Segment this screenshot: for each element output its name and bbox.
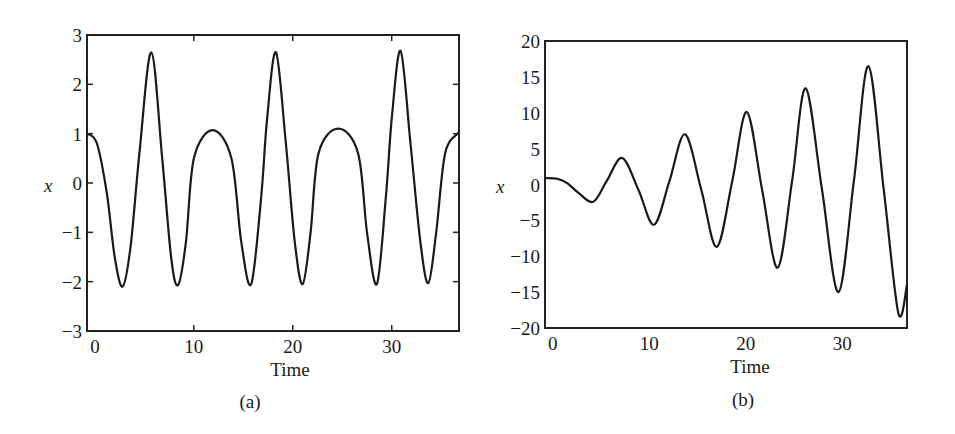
y-tick-label: 1 [73,124,83,145]
x-tick-label: 10 [184,336,203,357]
x-tick-label: 0 [90,336,100,357]
y-tick-label: −3 [62,321,82,342]
y-tick-label: 2 [73,74,83,95]
x-tick-labels-b: 0102030 [548,333,852,354]
ticks-a [87,35,459,331]
x-tick-label: 30 [382,336,401,357]
y-tick-label: 0 [73,173,83,194]
y-tick-label: −5 [520,210,540,231]
y-tick-label: −1 [62,222,82,243]
x-tick-label: 10 [640,333,659,354]
y-tick-label: 5 [531,139,541,160]
caption-b: (b) [732,389,754,411]
y-tick-label: 20 [521,31,540,52]
y-tick-label: −20 [510,318,540,339]
x-axis-label-b: Time [730,356,769,377]
y-tick-label: 10 [521,103,540,124]
figure: 3210−1−2−3 0102030 x Time (a) 20151050−5… [0,0,955,434]
series-curve-a [87,51,459,287]
plot-frame-a [87,35,459,331]
x-tick-labels-a: 0102030 [90,336,401,357]
y-tick-label: −15 [510,282,540,303]
y-axis-label-a: x [43,175,53,196]
y-tick-label: 15 [521,67,540,88]
chart-b: 20151050−5−10−15−20 0102030 x Time (b) [495,31,907,411]
series-curve-b [545,66,907,317]
x-tick-label: 20 [736,333,755,354]
chart-a: 3210−1−2−3 0102030 x Time (a) [43,25,459,413]
y-tick-labels-b: 20151050−5−10−15−20 [510,31,540,339]
y-tick-label: 3 [73,25,83,46]
y-tick-label: −10 [510,246,540,267]
y-tick-label: −2 [62,272,82,293]
x-tick-label: 20 [283,336,302,357]
x-tick-label: 0 [548,333,558,354]
y-tick-labels-a: 3210−1−2−3 [62,25,82,342]
x-tick-label: 30 [833,333,852,354]
y-axis-label-b: x [495,176,505,197]
caption-a: (a) [239,391,260,413]
y-tick-label: 0 [531,175,541,196]
x-axis-label-a: Time [270,359,309,380]
